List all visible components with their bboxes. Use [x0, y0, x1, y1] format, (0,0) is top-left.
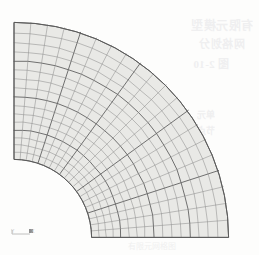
coordinate-triad-icon — [12, 229, 33, 234]
figure-page: 有限元模型 网格划分 图 2-10 单元 节点 Y X 有限元网格图 — [0, 0, 259, 255]
axis-label-x: X — [31, 228, 34, 234]
figure-caption: 有限元网格图 — [128, 240, 176, 251]
axis-label-y: Y — [11, 228, 14, 234]
finite-element-mesh — [0, 0, 259, 255]
